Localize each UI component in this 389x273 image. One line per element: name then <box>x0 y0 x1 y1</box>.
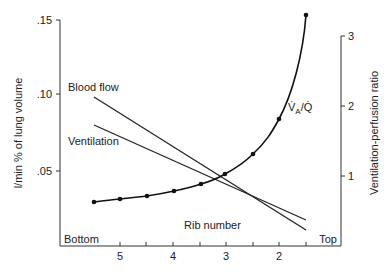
x-tick-4: 4 <box>170 250 176 262</box>
blood-flow-label: Blood flow <box>68 81 119 93</box>
y2-axis-label: Ventilation-perfusion ratio <box>368 71 380 195</box>
bottom-label: Bottom <box>64 233 99 245</box>
blood-flow-line <box>94 97 306 230</box>
vaq-curve <box>94 15 306 202</box>
y-tick-010: .10 <box>37 88 52 100</box>
top-label: Top <box>319 233 337 245</box>
x-tick-5: 5 <box>117 250 123 262</box>
ventilation-line <box>94 125 306 220</box>
x-tick-2: 2 <box>276 250 282 262</box>
x-tick-3: 3 <box>223 250 229 262</box>
y-tick-005: .05 <box>37 165 52 177</box>
y-axis-label: l/min % of lung volume <box>12 78 24 189</box>
ventilation-label: Ventilation <box>68 135 119 147</box>
y2-tick-2: 2 <box>348 100 354 112</box>
y-tick-015: .15 <box>37 14 52 26</box>
y2-tick-1: 1 <box>348 170 354 182</box>
x-axis-label: Rib number <box>184 219 241 231</box>
vaq-label: V̇A/Q̇ <box>288 101 313 116</box>
chart: .15 .10 .05 3 2 1 5 4 3 2 Bottom Top Rib… <box>0 0 389 273</box>
vaq-markers <box>92 13 309 205</box>
y2-tick-3: 3 <box>348 30 354 42</box>
